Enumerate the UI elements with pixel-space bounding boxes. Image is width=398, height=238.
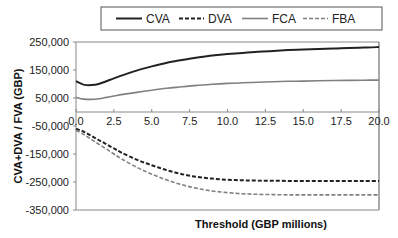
y-axis-title: CVA+DVA / FVA (GBP)	[12, 68, 24, 183]
x-tick-label: 17.5	[330, 115, 351, 127]
legend: CVA DVA FCA FBA	[101, 7, 382, 30]
series-line-dva	[76, 129, 379, 181]
legend-label-fba: FBA	[332, 12, 355, 26]
series-line-fba	[76, 130, 379, 195]
series-line-cva	[76, 47, 379, 85]
y-axis-ticks: 250,000150,00050,000-50,000-150,000-250,…	[26, 36, 76, 216]
x-tick-label: 5.0	[144, 115, 159, 127]
series-line-fca	[76, 80, 379, 99]
x-tick-label: 15.0	[293, 115, 314, 127]
y-tick-label: 250,000	[29, 36, 69, 48]
y-tick-label: -50,000	[32, 120, 69, 132]
x-tick-label: 10.0	[217, 115, 238, 127]
x-tick-label: 12.5	[255, 115, 276, 127]
chart: CVA DVA FCA FBA 0.02.55.07.510.012.515.0…	[0, 0, 398, 238]
y-tick-label: -150,000	[26, 148, 69, 160]
x-tick-label: 20.0	[368, 115, 389, 127]
y-tick-label: -250,000	[26, 176, 69, 188]
x-axis-title: Threshold (GBP millions)	[195, 218, 327, 230]
x-tick-label: 7.5	[182, 115, 197, 127]
y-tick-label: 150,000	[29, 64, 69, 76]
legend-label-cva: CVA	[146, 12, 170, 26]
y-tick-label: -350,000	[26, 204, 69, 216]
legend-label-fca: FCA	[272, 12, 296, 26]
legend-label-dva: DVA	[208, 12, 232, 26]
plot-area: 0.02.55.07.510.012.515.017.520.0 250,000…	[26, 36, 390, 216]
y-tick-label: 50,000	[35, 92, 69, 104]
x-tick-label: 2.5	[106, 115, 121, 127]
x-tick-label: 0.0	[68, 115, 83, 127]
